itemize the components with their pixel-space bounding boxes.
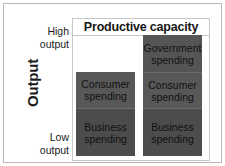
y-tick-low-line2: output — [15, 144, 69, 157]
segment-label-line1: Consumer — [81, 78, 129, 90]
segment-label-line1: Business — [151, 121, 194, 133]
y-tick-low-output: Low output — [15, 131, 69, 156]
segment-label-line1: Consumer — [148, 79, 196, 91]
plot-area: Consumer spending Business spending Gove… — [73, 36, 209, 160]
segment-label-line1: Business — [84, 121, 127, 133]
segment-label-line2: spending — [151, 54, 194, 66]
stacked-bar-right: Government spending Consumer spending Bu… — [143, 35, 202, 156]
segment-label-line2: spending — [84, 133, 127, 145]
page-frame: Output High output Low output Productive… — [3, 3, 222, 163]
segment-consumer-spending-right: Consumer spending — [143, 72, 202, 108]
segment-label-line2: spending — [151, 133, 194, 145]
segment-label-line2: spending — [151, 91, 194, 103]
segment-consumer-spending-left: Consumer spending — [76, 72, 135, 108]
chart-screenshot: Output High output Low output Productive… — [0, 0, 225, 166]
chart-title: Productive capacity — [73, 19, 209, 36]
y-tick-high-line1: High — [15, 25, 69, 38]
y-tick-high-output: High output — [15, 25, 69, 50]
segment-business-spending-right: Business spending — [143, 108, 202, 156]
chart-plot-box: Productive capacity Consumer spending Bu… — [72, 18, 210, 161]
segment-label-line1: Government — [144, 42, 202, 54]
stacked-bar-left: Consumer spending Business spending — [76, 72, 135, 156]
y-tick-low-line1: Low — [15, 131, 69, 144]
segment-business-spending-left: Business spending — [76, 108, 135, 156]
segment-government-spending-right: Government spending — [143, 35, 202, 72]
segment-label-line2: spending — [84, 90, 127, 102]
y-tick-high-line2: output — [15, 38, 69, 51]
